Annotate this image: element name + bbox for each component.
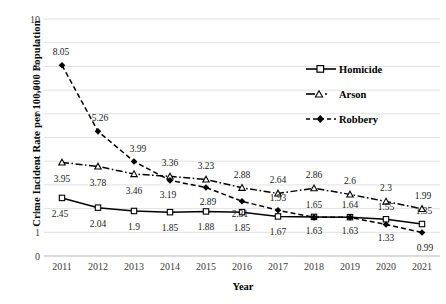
- data-point-homicide: [95, 205, 100, 210]
- data-point-robbery: [239, 198, 246, 205]
- data-point-robbery: [95, 128, 102, 135]
- data-label-arson: 2.3: [380, 183, 392, 193]
- data-label-homicide: 1.55: [378, 202, 395, 212]
- data-label-arson: 3.46: [126, 186, 143, 196]
- data-label-homicide: 1.67: [270, 227, 287, 237]
- data-point-homicide: [203, 209, 208, 214]
- data-label-robbery: 3.99: [130, 144, 147, 154]
- data-point-homicide: [167, 209, 172, 214]
- legend-swatch-arson: [306, 88, 336, 100]
- data-label-robbery: 1.63: [306, 226, 323, 236]
- data-label-arson: 2.6: [344, 176, 356, 186]
- data-label-arson: 2.88: [234, 170, 251, 180]
- data-label-robbery: 1.93: [270, 193, 287, 203]
- data-label-arson: 3.95: [54, 174, 71, 184]
- chart-legend: Homicide Arson Robbery: [306, 62, 416, 126]
- data-label-homicide: 2.04: [90, 219, 107, 229]
- line-chart: Crime Incident Rate per 100,000 Populati…: [0, 0, 446, 304]
- legend-item-robbery[interactable]: Robbery: [306, 112, 378, 126]
- data-label-robbery: 0.99: [417, 243, 434, 253]
- data-label-robbery: 3.19: [160, 190, 177, 200]
- data-label-robbery: 2.89: [200, 197, 217, 207]
- legend-swatch-homicide: [306, 63, 336, 75]
- data-label-homicide: 1.65: [306, 200, 323, 210]
- legend-label-robbery: Robbery: [339, 114, 378, 125]
- data-label-robbery: 1.63: [342, 226, 359, 236]
- data-point-robbery: [275, 207, 282, 214]
- data-label-arson: 1.99: [415, 191, 432, 201]
- data-label-robbery: 1.33: [378, 233, 395, 243]
- data-label-robbery: 8.05: [53, 47, 70, 57]
- legend-label-arson: Arson: [339, 89, 366, 100]
- data-label-robbery: 5.26: [92, 113, 109, 123]
- data-label-arson: 2.64: [270, 175, 287, 185]
- data-label-arson: 3.36: [162, 158, 179, 168]
- data-label-homicide: 2.45: [52, 209, 69, 219]
- data-label-homicide: 1.88: [198, 222, 215, 232]
- data-point-homicide: [275, 214, 280, 219]
- data-label-homicide: 1.85: [234, 223, 251, 233]
- legend-item-homicide[interactable]: Homicide: [306, 62, 382, 76]
- legend-swatch-robbery: [306, 113, 336, 125]
- data-label-arson: 3.78: [90, 178, 107, 188]
- legend-label-homicide: Homicide: [339, 64, 382, 75]
- legend-item-arson[interactable]: Arson: [306, 87, 366, 101]
- data-point-robbery: [59, 62, 66, 69]
- data-point-homicide: [419, 221, 424, 226]
- data-point-homicide: [131, 208, 136, 213]
- data-label-robbery: 2.31: [232, 209, 249, 219]
- data-label-arson: 2.86: [306, 170, 323, 180]
- data-label-homicide: 1.64: [342, 200, 359, 210]
- data-point-homicide: [383, 217, 388, 222]
- data-label-arson: 3.23: [198, 161, 215, 171]
- data-point-arson: [311, 185, 317, 191]
- plot-area: [0, 0, 446, 304]
- data-label-homicide: 1.35: [416, 206, 433, 216]
- data-point-robbery: [419, 229, 426, 236]
- data-label-homicide: 1.85: [162, 223, 179, 233]
- data-point-robbery: [131, 158, 138, 165]
- data-label-homicide: 1.9: [128, 222, 140, 232]
- data-point-homicide: [59, 195, 64, 200]
